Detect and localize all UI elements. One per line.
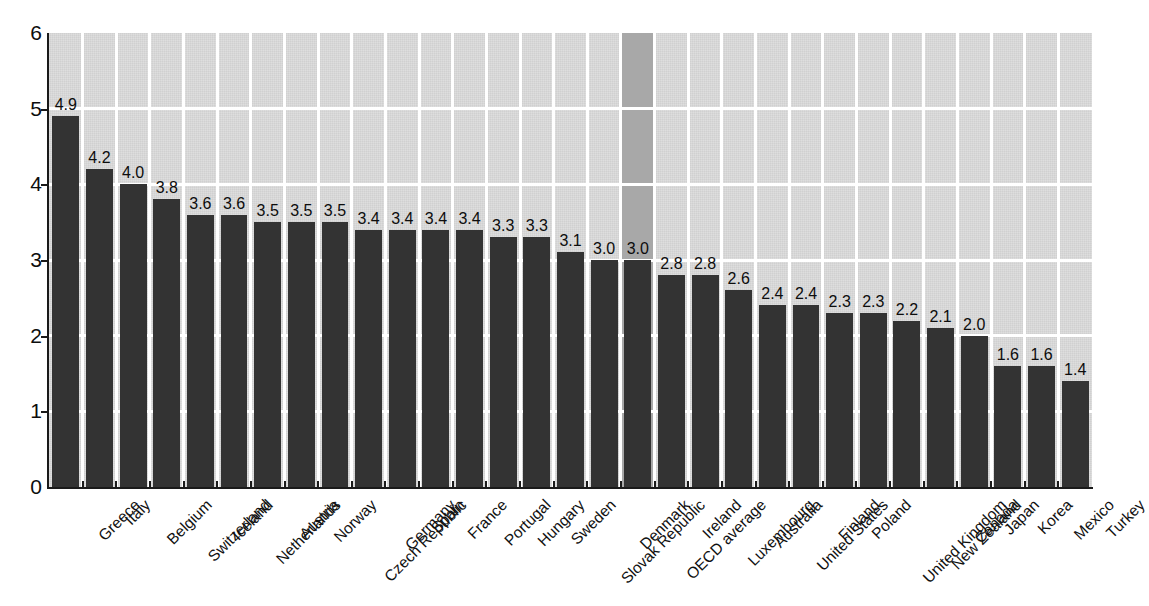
x-axis-tick-mark xyxy=(384,481,386,489)
y-axis-tick-mark xyxy=(41,109,49,111)
bar-value-label: 2.4 xyxy=(795,285,817,303)
y-axis-tick-label: 0 xyxy=(2,475,42,499)
bar-value-label: 3.4 xyxy=(425,210,447,228)
bar xyxy=(523,237,550,487)
y-axis-tick-label: 5 xyxy=(2,97,42,121)
bar xyxy=(490,237,517,487)
bar-value-label: 4.2 xyxy=(88,149,110,167)
y-axis-tick-label: 6 xyxy=(2,21,42,45)
bar xyxy=(927,328,954,487)
bar xyxy=(860,313,887,487)
bar xyxy=(591,260,618,487)
x-axis-tick-mark xyxy=(250,481,252,489)
y-axis-tick-label: 4 xyxy=(2,172,42,196)
bar-value-label: 3.4 xyxy=(391,210,413,228)
bar xyxy=(389,230,416,487)
x-axis-tick-mark xyxy=(452,481,454,489)
bar xyxy=(793,305,820,487)
y-axis-tick-mark xyxy=(41,260,49,262)
bar-value-label: 2.3 xyxy=(829,293,851,311)
x-axis-tick-mark xyxy=(183,481,185,489)
x-axis-tick-mark xyxy=(721,481,723,489)
y-axis-tick-label: 3 xyxy=(2,248,42,272)
bar-value-label: 2.2 xyxy=(896,301,918,319)
bar xyxy=(557,252,584,487)
x-axis-tick-mark xyxy=(519,481,521,489)
bar xyxy=(322,222,349,487)
x-axis-tick-mark xyxy=(855,481,857,489)
x-axis-tick-mark xyxy=(788,481,790,489)
bar xyxy=(1028,366,1055,487)
bar xyxy=(355,230,382,487)
bar-value-label: 2.4 xyxy=(761,285,783,303)
bar-value-label: 3.6 xyxy=(189,195,211,213)
bar-value-label: 3.6 xyxy=(223,195,245,213)
bar xyxy=(254,222,281,487)
x-axis-tick-mark xyxy=(990,481,992,489)
bar-value-label: 3.0 xyxy=(593,240,615,258)
bar xyxy=(692,275,719,487)
bar-value-label: 2.8 xyxy=(660,255,682,273)
x-axis-tick-mark xyxy=(755,481,757,489)
x-axis-tick-mark xyxy=(216,481,218,489)
horizontal-gridline xyxy=(49,183,1092,186)
x-axis-line xyxy=(47,487,1093,489)
bar xyxy=(86,169,113,487)
bar-value-label: 3.4 xyxy=(358,210,380,228)
bar xyxy=(187,215,214,487)
bar-value-label: 2.1 xyxy=(929,308,951,326)
x-axis-tick-mark xyxy=(620,481,622,489)
bar-value-label: 2.0 xyxy=(963,316,985,334)
bar-value-label: 4.0 xyxy=(122,164,144,182)
x-axis-tick-mark xyxy=(149,481,151,489)
bar-value-label: 3.0 xyxy=(627,240,649,258)
bar-value-label: 3.8 xyxy=(156,179,178,197)
x-axis-tick-mark xyxy=(687,481,689,489)
horizontal-gridline xyxy=(49,107,1092,110)
x-axis-tick-mark xyxy=(284,481,286,489)
x-axis-tick-mark xyxy=(317,481,319,489)
x-axis-tick-mark xyxy=(1057,481,1059,489)
bar xyxy=(221,215,248,487)
y-axis-tick-label: 1 xyxy=(2,399,42,423)
plot-area: 4.94.24.03.83.63.63.53.53.53.43.43.43.43… xyxy=(49,33,1092,487)
x-axis-tick-mark xyxy=(485,481,487,489)
bar xyxy=(893,321,920,487)
x-axis-tick-mark xyxy=(1024,481,1026,489)
bar-value-label: 3.1 xyxy=(559,232,581,250)
x-axis-category-label: Korea xyxy=(1034,496,1076,538)
bar-value-label: 3.5 xyxy=(290,202,312,220)
x-axis-tick-mark xyxy=(654,481,656,489)
x-axis-tick-mark xyxy=(418,481,420,489)
bar xyxy=(624,260,651,487)
bar xyxy=(288,222,315,487)
bar-value-label: 3.3 xyxy=(492,217,514,235)
y-axis-tick-mark xyxy=(41,336,49,338)
x-axis-tick-mark xyxy=(889,481,891,489)
y-axis-tick-label: 2 xyxy=(2,324,42,348)
bar xyxy=(120,184,147,487)
y-axis-tick-labels: 0123456 xyxy=(0,0,42,606)
bar-value-label: 4.9 xyxy=(55,96,77,114)
bar xyxy=(153,199,180,487)
bar-value-label: 1.6 xyxy=(997,346,1019,364)
x-axis-tick-mark xyxy=(82,481,84,489)
bar-value-label: 3.3 xyxy=(526,217,548,235)
bar xyxy=(826,313,853,487)
bar xyxy=(961,336,988,487)
x-axis-tick-mark xyxy=(553,481,555,489)
bar-value-label: 1.6 xyxy=(1030,346,1052,364)
bar xyxy=(456,230,483,487)
x-axis-tick-mark xyxy=(586,481,588,489)
x-axis-tick-mark xyxy=(115,481,117,489)
bar-value-label: 2.6 xyxy=(728,270,750,288)
bar-value-label: 3.4 xyxy=(458,210,480,228)
bar xyxy=(52,116,79,487)
x-axis-tick-mark xyxy=(822,481,824,489)
bar xyxy=(1062,381,1089,487)
y-axis-tick-mark xyxy=(41,411,49,413)
x-axis-tick-mark xyxy=(956,481,958,489)
x-axis-tick-mark xyxy=(923,481,925,489)
bar-value-label: 2.8 xyxy=(694,255,716,273)
